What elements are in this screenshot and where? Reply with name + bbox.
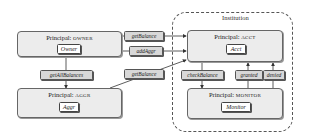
principal-owner: Principal: OWNER Owner [17,31,122,57]
principal-aggr-title: Principal: AGGR [18,91,121,98]
message-get-balance-owner[interactable]: getBalance [124,31,164,41]
message-check-balance[interactable]: checkBalance [181,70,224,80]
object-acct[interactable]: Acct [226,44,246,54]
object-aggr[interactable]: Aggr [59,102,79,112]
principal-acct-title: Principal: ACCT [188,33,282,40]
message-add-aggr[interactable]: addAggr [129,46,163,56]
principal-monitor-title: Principal: MONITOR [188,91,282,98]
message-get-all-balances[interactable]: getAllBalances [40,70,93,80]
message-denied[interactable]: denied [263,70,285,80]
institution-label: Institution [222,14,249,21]
message-granted[interactable]: granted [235,70,263,80]
principal-owner-title: Principal: OWNER [18,34,121,41]
message-get-balance-aggr[interactable]: getBalance [124,69,164,79]
principal-acct: Principal: ACCT Acct [187,30,283,62]
object-owner[interactable]: Owner [57,44,81,54]
principal-monitor: Principal: MONITOR Monitor [187,88,283,119]
principal-aggr: Principal: AGGR Aggr [17,88,122,118]
object-monitor[interactable]: Monitor [221,102,251,112]
